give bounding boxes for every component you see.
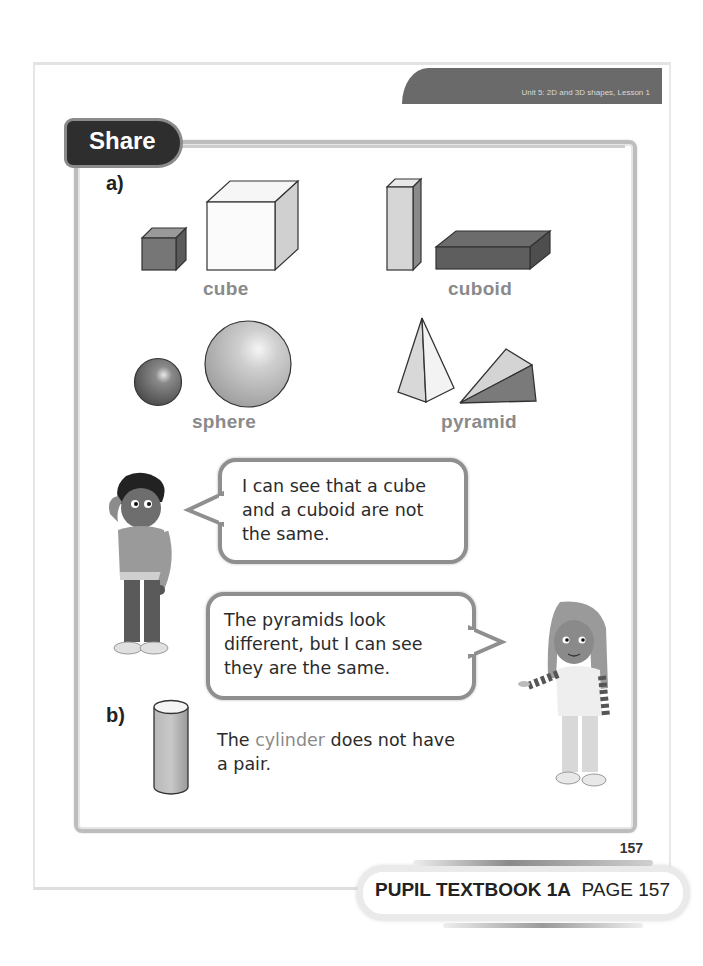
unit-lesson-tab: Unit 5: 2D and 3D shapes, Lesson 1 xyxy=(402,68,662,104)
square-pyramid-icon xyxy=(396,316,456,406)
bubble-boy-pointer xyxy=(186,490,226,530)
cylinder-icon xyxy=(152,699,190,797)
small-sphere-icon xyxy=(133,357,185,409)
bubble-girl-line-2: different, but I can see xyxy=(224,632,422,656)
bubble-boy-line-3: the same. xyxy=(242,522,330,546)
speech-bubble-boy: I can see that a cube and a cuboid are n… xyxy=(218,458,468,564)
tall-cuboid-icon xyxy=(385,177,425,272)
bubble-girl-line-3: they are the same. xyxy=(224,656,390,680)
flat-cuboid-icon xyxy=(434,229,552,271)
footer-text: PUPIL TEXTBOOK 1A PAGE 157 xyxy=(375,879,670,901)
footer-page: PAGE 157 xyxy=(582,879,670,900)
part-b-text-before: The xyxy=(217,730,255,750)
boy-character-icon xyxy=(98,470,180,662)
large-sphere-icon xyxy=(204,320,294,410)
part-b-label: b) xyxy=(106,704,125,727)
cube-label: cube xyxy=(203,278,249,300)
part-b-line-2: a pair. xyxy=(217,752,271,776)
bubble-girl-line-1: The pyramids look xyxy=(224,608,386,632)
section-title: Share xyxy=(89,127,156,155)
sphere-label: sphere xyxy=(192,411,256,433)
footer-shade-top xyxy=(413,860,653,866)
bubble-girl-pointer xyxy=(466,624,506,664)
tilted-pyramid-icon xyxy=(458,347,542,405)
footer-reference: PUPIL TEXTBOOK 1A PAGE 157 xyxy=(357,866,689,920)
share-tab: Share xyxy=(67,121,180,165)
small-cube-icon xyxy=(140,226,188,272)
bubble-boy-line-1: I can see that a cube xyxy=(242,474,426,498)
share-header-line xyxy=(180,145,625,148)
unit-lesson-text: Unit 5: 2D and 3D shapes, Lesson 1 xyxy=(521,88,650,97)
pyramid-label: pyramid xyxy=(441,411,517,433)
cuboid-label: cuboid xyxy=(448,278,512,300)
footer-book-title: PUPIL TEXTBOOK 1A xyxy=(375,879,571,900)
part-a-label: a) xyxy=(106,172,124,195)
speech-bubble-girl: The pyramids look different, but I can s… xyxy=(206,592,476,700)
part-b-statement: The cylinder does not have xyxy=(217,728,455,752)
part-b-text-after: does not have xyxy=(325,730,455,750)
bubble-boy-line-2: and a cuboid are not xyxy=(242,498,423,522)
page-number: 157 xyxy=(620,840,643,856)
large-cube-icon xyxy=(205,179,300,272)
footer-shade-bottom xyxy=(443,923,643,928)
girl-character-icon xyxy=(518,598,618,790)
cylinder-term: cylinder xyxy=(255,730,325,750)
